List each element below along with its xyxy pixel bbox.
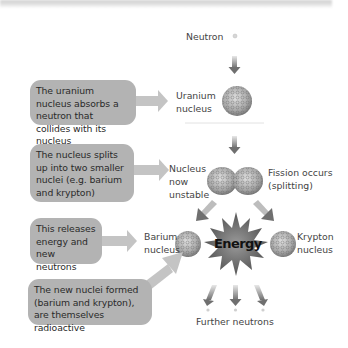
uranium-label-line1: Uranium xyxy=(176,90,216,102)
step-2-text: The nucleus splits up into two smaller n… xyxy=(36,149,124,198)
arrow-neutron-left-icon xyxy=(203,285,217,312)
step-3-box: This releases energy and new neutrons xyxy=(30,218,102,264)
further-neutrons-label: Further neutrons xyxy=(196,316,274,328)
step-1-box: The uranium nucleus absorbs a neutron th… xyxy=(30,80,136,125)
krypton-label-line2: nucleus xyxy=(297,244,333,256)
connector-arrow-1-icon xyxy=(134,90,168,112)
unstable-label-line1: Nucleus xyxy=(169,163,206,175)
step-2-box: The nucleus splits up into two smaller n… xyxy=(30,144,134,202)
fission-label-line2: (splitting) xyxy=(268,180,313,192)
krypton-label-line1: Krypton xyxy=(297,231,334,243)
splitting-nucleus-icon xyxy=(207,167,263,195)
arrow-neutron-right-icon xyxy=(254,285,268,312)
neutron-label: Neutron xyxy=(186,31,223,43)
arrow-diagonal-icon xyxy=(196,200,217,221)
neutron-icon xyxy=(233,34,237,38)
arrow-neutron-center-icon xyxy=(230,285,242,312)
connector-arrow-3-icon xyxy=(100,230,137,252)
arrow-down-icon xyxy=(229,56,241,74)
arrow-diagonal-icon xyxy=(253,200,274,221)
unstable-label-line3: unstable xyxy=(169,189,209,201)
krypton-nucleus-icon xyxy=(270,231,296,257)
unstable-label-line2: now xyxy=(169,176,188,188)
connector-arrow-2-icon xyxy=(134,159,169,181)
arrow-down-icon xyxy=(229,136,241,154)
step-4-box: The new nuclei formed (barium and krypto… xyxy=(28,279,152,325)
energy-label: Energy xyxy=(214,236,262,251)
uranium-nucleus-icon xyxy=(222,86,252,116)
fission-label-line1: Fission occurs xyxy=(268,167,333,179)
uranium-label-line2: nucleus xyxy=(176,103,212,115)
barium-label-line1: Barium xyxy=(144,231,177,243)
barium-label-line2: nucleus xyxy=(144,244,180,256)
